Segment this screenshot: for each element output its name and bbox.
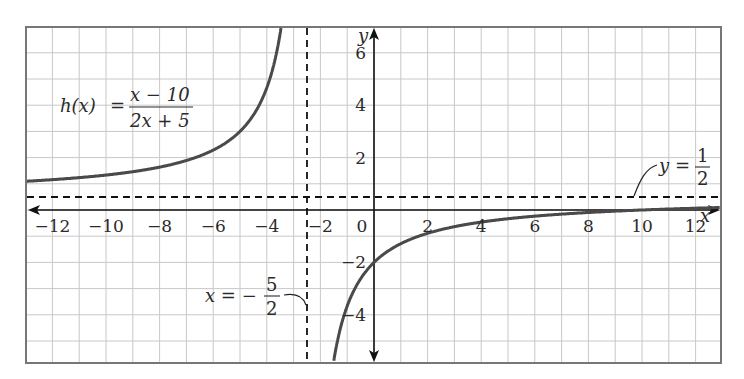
x-tick-label: 0 [357, 216, 368, 236]
svg-text:=: = [110, 95, 125, 116]
svg-text:x = −: x = − [205, 285, 257, 306]
svg-text:h(x): h(x) [60, 95, 96, 116]
x-tick-label: −6 [201, 216, 226, 236]
y-tick-label: −4 [341, 305, 366, 325]
x-tick-label: 4 [476, 216, 487, 236]
svg-text:2: 2 [266, 298, 277, 319]
svg-text:x − 10: x − 10 [130, 84, 190, 105]
svg-text:5: 5 [266, 274, 277, 295]
x-tick-label: −8 [147, 216, 172, 236]
x-tick-label: 6 [529, 216, 540, 236]
x-tick-label: −2 [308, 216, 333, 236]
y-tick-label: 4 [355, 95, 366, 115]
svg-text:2x + 5: 2x + 5 [129, 110, 190, 131]
x-tick-label: −4 [254, 216, 279, 236]
rational-function-graph: −12−10−8−6−4−2024681012 642−2−4 x y h(x)… [0, 0, 744, 379]
svg-text:y =: y = [658, 155, 690, 176]
vertical-asymptote-label: x = − 5 2 [205, 274, 306, 319]
x-tick-label: −12 [34, 216, 70, 236]
svg-text:1: 1 [697, 145, 708, 166]
function-label: h(x) = x − 10 2x + 5 [60, 84, 193, 131]
svg-text:2: 2 [697, 168, 708, 189]
x-tick-label: 2 [422, 216, 433, 236]
y-axis-label: y [357, 25, 369, 46]
x-tick-label: 8 [583, 216, 594, 236]
x-tick-label: 10 [631, 216, 653, 236]
curve-right-branch [334, 208, 720, 361]
horizontal-asymptote-label: y = 1 2 [634, 145, 710, 196]
x-axis-label: x [700, 205, 710, 226]
x-tick-labels: −12−10−8−6−4−2024681012 [34, 216, 706, 236]
y-tick-label: −2 [341, 252, 366, 272]
x-tick-label: −10 [88, 216, 124, 236]
y-tick-label: 2 [355, 148, 366, 168]
